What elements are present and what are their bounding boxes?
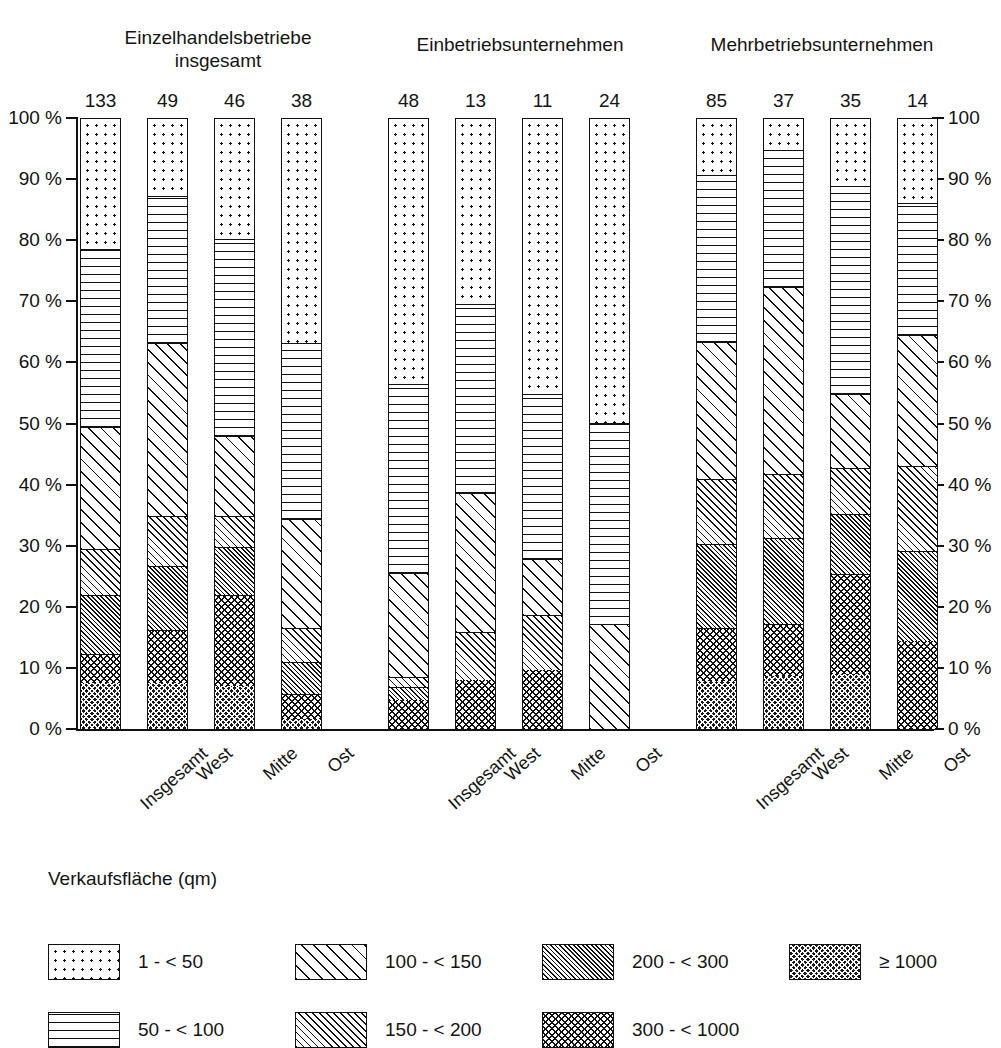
bar-segment-s5: [764, 538, 803, 624]
bar-2-ost[interactable]: [589, 118, 630, 730]
bar-count-label: 49: [135, 90, 200, 112]
bar-segment-s2: [764, 150, 803, 287]
bar-1-ost[interactable]: [281, 118, 322, 730]
y-axis-label-left-20: 20 %: [0, 596, 62, 618]
bar-segment-s2: [215, 239, 254, 436]
bar-segment-s3: [764, 287, 803, 475]
bar-3-west[interactable]: [763, 118, 804, 730]
bar-1-mitte[interactable]: [214, 118, 255, 730]
bar-1-west[interactable]: [147, 118, 188, 730]
bar-segment-s2: [456, 304, 495, 492]
bar-segment-s3: [831, 394, 870, 467]
bar-count-label: 35: [818, 90, 883, 112]
bar-segment-s1: [389, 118, 428, 384]
bar-3-mitte[interactable]: [830, 118, 871, 730]
legend-item-2[interactable]: 100 - < 150: [295, 944, 482, 980]
bar-segment-s2: [389, 384, 428, 573]
legend-swatch-6: [789, 944, 861, 980]
bar-segment-s6: [456, 680, 495, 729]
legend-swatch-3: [295, 1012, 367, 1048]
legend-item-0[interactable]: 1 - < 50: [48, 944, 203, 980]
bar-segment-s6: [898, 641, 937, 729]
legend-label-6: ≥ 1000: [879, 951, 937, 973]
bar-segment-s6: [215, 595, 254, 686]
y-axis-label-left-30: 30 %: [0, 535, 62, 557]
bar-segment-s3: [898, 335, 937, 466]
bar-segment-s5: [898, 551, 937, 641]
legend-item-5[interactable]: 300 - < 1000: [542, 1012, 739, 1048]
y-axis-label-left-100: 100 %: [0, 107, 62, 129]
y-axis-label-right-20: 20 %: [948, 596, 1001, 618]
bar-count-label: 133: [68, 90, 133, 112]
bar-segment-s1: [456, 118, 495, 304]
bar-segment-s5: [215, 547, 254, 595]
bar-segment-s5: [81, 595, 120, 654]
y-axis-label-right-30: 30 %: [948, 535, 1001, 557]
legend-item-6[interactable]: ≥ 1000: [789, 944, 937, 980]
bar-segment-s5: [697, 544, 736, 627]
y-tick-left-60: [66, 361, 78, 363]
bar-count-label: 37: [751, 90, 816, 112]
bar-1-insgesamt[interactable]: [80, 118, 121, 730]
y-tick-left-40: [66, 484, 78, 486]
y-tick-left-30: [66, 545, 78, 547]
legend: Verkaufsfläche (qm) 1 - < 5050 - < 10010…: [48, 868, 988, 1036]
bar-segment-s2: [898, 203, 937, 335]
legend-swatch-0: [48, 944, 120, 980]
y-axis-label-right-50: 50 %: [948, 413, 1001, 435]
legend-item-1[interactable]: 50 - < 100: [48, 1012, 224, 1048]
bar-segment-s5: [831, 514, 870, 574]
y-axis-label-left-90: 90 %: [0, 168, 62, 190]
bar-segment-s1: [697, 118, 736, 175]
bar-count-label: 38: [269, 90, 334, 112]
y-tick-left-70: [66, 300, 78, 302]
x-axis: [76, 729, 934, 731]
legend-label-3: 150 - < 200: [385, 1019, 482, 1041]
y-axis-label-right-70: 70 %: [948, 290, 1001, 312]
bar-segment-s4: [523, 615, 562, 669]
bar-segment-s4: [456, 632, 495, 680]
y-tick-left-10: [66, 667, 78, 669]
bar-2-insgesamt[interactable]: [388, 118, 429, 730]
y-tick-left-100: [66, 117, 78, 119]
bar-count-label: 46: [202, 90, 267, 112]
bar-3-insgesamt[interactable]: [696, 118, 737, 730]
bar-segment-s7: [81, 683, 120, 729]
x-axis-label-mitte: Mitte: [567, 743, 610, 785]
bar-segment-s7: [282, 719, 321, 729]
y-axis-label-right-10: 10 %: [948, 657, 1001, 679]
legend-label-0: 1 - < 50: [138, 951, 203, 973]
bar-segment-s4: [81, 549, 120, 595]
bar-segment-s3: [148, 343, 187, 516]
y-axis-label-left-0: 0 %: [0, 718, 62, 740]
bar-segment-s1: [898, 118, 937, 203]
bar-segment-s1: [282, 118, 321, 343]
y-axis-label-left-80: 80 %: [0, 229, 62, 251]
bar-segment-s3: [215, 436, 254, 517]
bar-segment-s2: [523, 394, 562, 560]
bar-2-west[interactable]: [455, 118, 496, 730]
bar-segment-s2: [282, 343, 321, 519]
bar-segment-s6: [148, 630, 187, 683]
bar-segment-s7: [697, 681, 736, 729]
bar-2-mitte[interactable]: [522, 118, 563, 730]
bar-segment-s1: [764, 118, 803, 150]
bar-segment-s5: [282, 662, 321, 694]
legend-item-3[interactable]: 150 - < 200: [295, 1012, 482, 1048]
y-axis-label-left-60: 60 %: [0, 351, 62, 373]
y-tick-left-20: [66, 606, 78, 608]
bar-segment-s2: [831, 186, 870, 394]
bar-segment-s1: [215, 118, 254, 239]
bar-segment-s3: [590, 625, 629, 729]
bar-segment-s4: [389, 677, 428, 687]
legend-item-4[interactable]: 200 - < 300: [542, 944, 729, 980]
legend-label-5: 300 - < 1000: [632, 1019, 739, 1041]
legend-label-1: 50 - < 100: [138, 1019, 224, 1041]
bar-segment-s6: [764, 624, 803, 677]
y-tick-left-0: [66, 728, 78, 730]
bar-count-label: 85: [684, 90, 749, 112]
bar-segment-s4: [898, 466, 937, 552]
bar-3-ost[interactable]: [897, 118, 938, 730]
bar-segment-s1: [831, 118, 870, 186]
bar-segment-s3: [697, 342, 736, 479]
